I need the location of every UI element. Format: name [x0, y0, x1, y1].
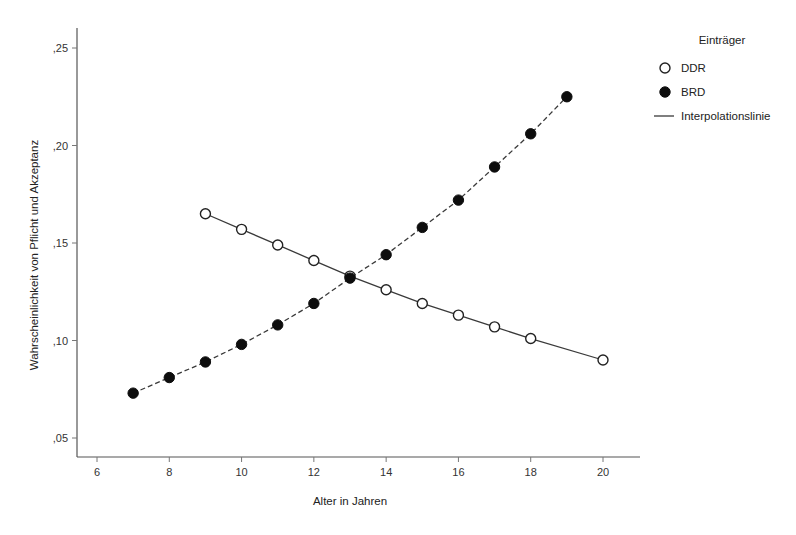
legend-marker-filled-circle-icon — [660, 87, 670, 97]
chart-figure: ,05,10,15,20,25 68101214161820 Wahrschei… — [0, 0, 796, 535]
data-point-brd — [489, 162, 499, 172]
legend-entry-label: Interpolationslinie — [681, 110, 771, 122]
data-point-brd — [200, 357, 210, 367]
x-axis-tick-label: 14 — [380, 466, 392, 478]
x-axis-tick-label: 10 — [235, 466, 247, 478]
x-axis-tick-label: 18 — [525, 466, 537, 478]
y-axis-tick-label: ,10 — [53, 335, 68, 347]
data-point-brd — [417, 222, 427, 232]
data-point-ddr — [526, 334, 536, 344]
y-axis-title: Wahrscheinlichkeit von Pflicht und Akzep… — [28, 140, 40, 371]
data-point-brd — [453, 195, 463, 205]
chart-canvas: ,05,10,15,20,25 68101214161820 Wahrschei… — [0, 0, 796, 535]
x-axis-title: Alter in Jahren — [313, 495, 387, 507]
data-point-brd — [273, 320, 283, 330]
y-axis-tick-label: ,05 — [53, 432, 68, 444]
data-point-brd — [164, 372, 174, 382]
data-point-brd — [381, 250, 391, 260]
x-axis-tick-label: 6 — [94, 466, 100, 478]
legend-title: Einträger — [699, 34, 746, 46]
data-point-brd — [128, 388, 138, 398]
chart-background — [0, 0, 796, 535]
data-point-brd — [345, 273, 355, 283]
legend-entry-label: DDR — [681, 62, 706, 74]
data-point-ddr — [309, 256, 319, 266]
x-axis-tick-label: 16 — [452, 466, 464, 478]
y-axis-tick-label: ,25 — [53, 42, 68, 54]
x-axis-tick-label: 12 — [308, 466, 320, 478]
data-point-ddr — [598, 355, 608, 365]
x-axis-tick-label: 8 — [166, 466, 172, 478]
data-point-brd — [309, 298, 319, 308]
data-point-ddr — [417, 298, 427, 308]
data-point-ddr — [237, 224, 247, 234]
data-point-brd — [526, 129, 536, 139]
y-axis-tick-label: ,15 — [53, 237, 68, 249]
data-point-ddr — [490, 322, 500, 332]
data-point-ddr — [273, 240, 283, 250]
x-axis-tick-label: 20 — [597, 466, 609, 478]
data-point-brd — [562, 92, 572, 102]
data-point-ddr — [200, 209, 210, 219]
legend-entry-label: BRD — [681, 86, 705, 98]
data-point-ddr — [453, 310, 463, 320]
legend-marker-open-circle-icon — [660, 63, 670, 73]
y-axis-tick-label: ,20 — [53, 140, 68, 152]
data-point-ddr — [381, 285, 391, 295]
data-point-brd — [236, 339, 246, 349]
